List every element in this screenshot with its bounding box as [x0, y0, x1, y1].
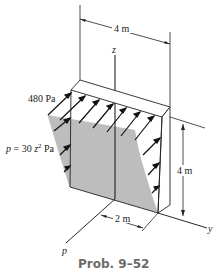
y-axis-label: y	[207, 223, 213, 234]
plate-top-face	[71, 80, 170, 117]
pressure-plate-diagram: 4 m z 4 m y p 2	[0, 0, 220, 272]
figure-caption: Prob. 9–52	[78, 257, 149, 271]
pressure-eq-unit: Pa	[42, 143, 55, 154]
arrow-head-icon	[80, 19, 86, 22]
arrow-head-icon	[164, 41, 170, 44]
arrow-head-icon	[101, 215, 107, 218]
p-axis	[66, 199, 115, 243]
pressure-equation-label: p = 30 z2 Pa	[5, 142, 55, 154]
arrow-head-icon	[137, 225, 143, 228]
height-dimension-label: 4 m	[177, 165, 193, 176]
pressure-eq-prefix: = 30	[11, 143, 34, 154]
z-axis-label: z	[111, 44, 116, 55]
max-pressure-label: 480 Pa	[28, 93, 56, 104]
p-axis-label: p	[61, 245, 67, 256]
top-dimension-label: 4 m	[114, 23, 130, 34]
dim-ext-bottom-right	[142, 213, 158, 231]
arrow-head-icon	[181, 210, 185, 216]
arrow-head-icon	[181, 124, 185, 130]
dim-ext-top-right	[170, 117, 205, 128]
bottom-dimension-label: 2 m	[115, 213, 131, 224]
y-axis	[158, 213, 207, 228]
